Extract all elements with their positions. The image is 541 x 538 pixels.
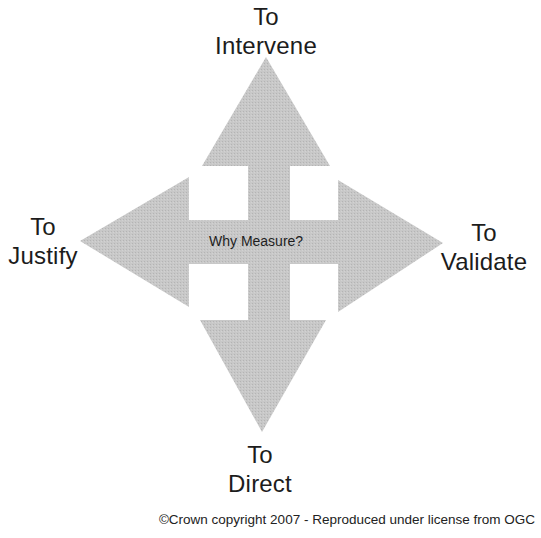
- corner-square-tl: [189, 170, 247, 220]
- label-direct-line2: Direct: [210, 469, 310, 498]
- label-intervene-line1: To: [206, 2, 326, 31]
- corner-square-tr: [291, 170, 338, 220]
- corner-square-bl: [189, 271, 247, 319]
- label-validate-line1: To: [434, 218, 534, 247]
- label-direct-line1: To: [210, 440, 310, 469]
- label-justify-line2: Justify: [0, 241, 86, 270]
- arrow-left-icon: [80, 177, 189, 307]
- copyright-credit: ©Crown copyright 2007 - Reproduced under…: [159, 512, 535, 527]
- corner-square-br: [291, 271, 338, 319]
- arrow-up-icon: [202, 57, 330, 166]
- label-validate: To Validate: [434, 218, 534, 276]
- center-title: Why Measure?: [209, 233, 303, 249]
- label-justify-line1: To: [0, 212, 86, 241]
- arrow-right-icon: [338, 180, 443, 312]
- arrow-down-icon: [200, 320, 326, 432]
- label-validate-line2: Validate: [434, 247, 534, 276]
- label-justify: To Justify: [0, 212, 86, 270]
- label-intervene-line2: Intervene: [206, 31, 326, 60]
- label-direct: To Direct: [210, 440, 310, 498]
- why-measure-diagram: To Intervene To Justify To Validate To D…: [0, 0, 541, 538]
- label-intervene: To Intervene: [206, 2, 326, 60]
